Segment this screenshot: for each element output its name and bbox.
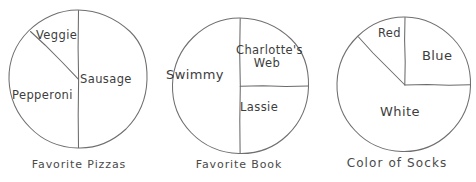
pie-chart-color-of-socks: Red Blue White Color of Socks: [318, 0, 476, 182]
pie-chart-favorite-book: Swimmy Charlotte's Web Lassie Favorite B…: [160, 0, 318, 182]
worksheet-canvas: Veggie Pepperoni Sausage Favorite Pizzas…: [0, 0, 476, 182]
pie-3-slice-label-red: Red: [378, 27, 401, 40]
pie-chart-1-graphic: [0, 0, 158, 160]
pie-3-slice-label-white: White: [380, 105, 420, 120]
pie-2-slice-label-swimmy: Swimmy: [166, 68, 224, 83]
pie-2-divider-horizontal: [240, 86, 308, 87]
pie-2-caption: Favorite Book: [160, 158, 318, 171]
pie-1-slice-label-veggie: Veggie: [36, 29, 77, 42]
pie-chart-3-graphic: [318, 0, 476, 160]
pie-chart-favorite-pizzas: Veggie Pepperoni Sausage Favorite Pizzas: [0, 0, 158, 182]
pie-3-slice-label-blue: Blue: [422, 49, 452, 64]
pie-2-divider-vertical: [240, 19, 241, 154]
pie-3-divider-diagonal: [359, 37, 405, 85]
pie-2-slice-label-charlottes-web: Charlotte's Web: [236, 44, 298, 70]
pie-3-divider-right: [405, 85, 470, 86]
pie-1-caption: Favorite Pizzas: [0, 158, 158, 171]
pie-1-slice-label-sausage: Sausage: [80, 73, 132, 86]
pie-1-slice-label-pepperoni: Pepperoni: [12, 89, 73, 102]
pie-2-slice-label-lassie: Lassie: [240, 101, 278, 114]
pie-3-divider-up: [405, 18, 406, 85]
pie-3-caption: Color of Socks: [318, 156, 476, 170]
